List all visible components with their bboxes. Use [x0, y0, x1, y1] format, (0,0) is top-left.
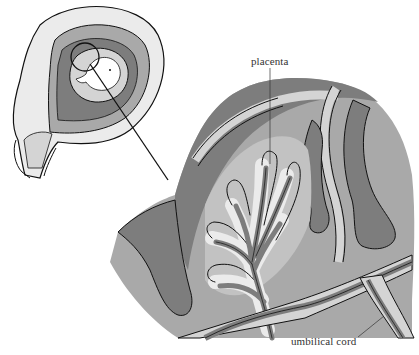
diagram-illustration — [0, 0, 419, 355]
magnified-placenta — [110, 68, 414, 338]
placenta-diagram: placenta umbilical cord — [0, 0, 419, 355]
placenta-label: placenta — [251, 55, 288, 67]
umbilical-cord-label: umbilical cord — [291, 335, 356, 347]
uterus-inset — [14, 7, 168, 180]
